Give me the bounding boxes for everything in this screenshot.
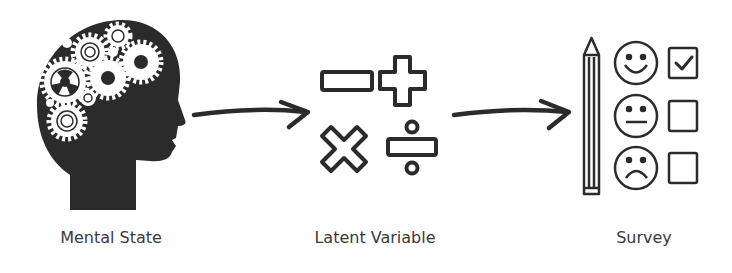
diagram-canvas: Mental State Latent Variable Survey: [0, 0, 732, 273]
checkbox-empty-icon: [669, 153, 697, 183]
node-label-survey: Survey: [616, 228, 672, 247]
sad-face-icon: [615, 147, 657, 189]
checkbox-checked-icon: [669, 48, 697, 78]
head-gears-icon: [37, 20, 186, 210]
math-operators-icon: [322, 57, 436, 174]
checkbox-empty-icon: [669, 101, 697, 131]
arrow-icon: [194, 102, 308, 127]
survey-form-icon: [584, 38, 697, 194]
neutral-face-icon: [615, 95, 657, 137]
node-label-latent-variable: Latent Variable: [314, 228, 435, 247]
node-label-mental-state: Mental State: [60, 228, 162, 247]
happy-face-icon: [615, 42, 657, 84]
pencil-icon: [584, 38, 599, 194]
arrow-icon: [454, 101, 569, 128]
